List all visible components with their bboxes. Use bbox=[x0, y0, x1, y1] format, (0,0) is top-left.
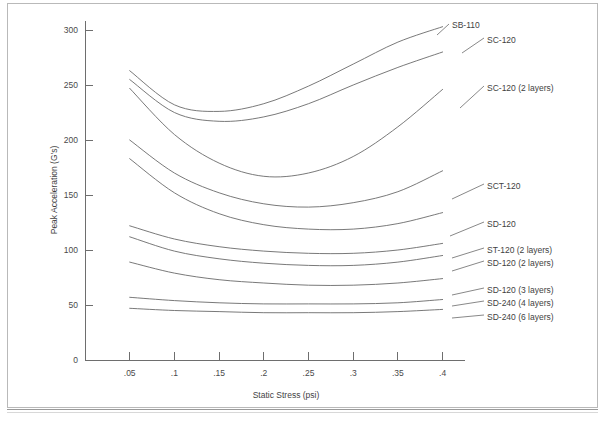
series-labels: SB-110SC-120SC-120 (2 layers)SCT-120SD-1… bbox=[452, 20, 554, 322]
series-leader-line bbox=[452, 184, 484, 199]
series-label: SD-120 bbox=[487, 219, 516, 229]
figure-page: 050100150200250300 .05.1.15.2.25.3.35.4 … bbox=[0, 0, 606, 425]
series-curves bbox=[130, 27, 443, 313]
series-label: SC-120 (2 layers) bbox=[487, 83, 554, 93]
series-label: ST-120 (2 layers) bbox=[487, 245, 552, 255]
y-tick-label: 100 bbox=[64, 245, 78, 255]
series-label: SC-120 bbox=[487, 35, 516, 45]
y-tick-label: 50 bbox=[69, 300, 79, 310]
series-curve bbox=[130, 308, 443, 312]
series-curve bbox=[130, 226, 443, 254]
peak-acceleration-chart: 050100150200250300 .05.1.15.2.25.3.35.4 … bbox=[0, 0, 606, 425]
series-leader-line bbox=[450, 222, 484, 236]
series-curve bbox=[130, 159, 443, 230]
y-tick-label: 250 bbox=[64, 80, 78, 90]
series-label: SD-120 (2 layers) bbox=[487, 258, 554, 268]
series-curve bbox=[130, 262, 443, 285]
x-tick-label: .3 bbox=[350, 368, 357, 378]
x-tick-label: .2 bbox=[260, 368, 267, 378]
y-tick-label: 0 bbox=[73, 355, 78, 365]
y-tick-label: 150 bbox=[64, 190, 78, 200]
series-curve bbox=[130, 140, 443, 207]
series-curve bbox=[130, 52, 443, 121]
series-leader-line bbox=[460, 86, 484, 108]
y-axis-ticks: 050100150200250300 bbox=[64, 25, 93, 365]
x-axis-title: Static Stress (psi) bbox=[253, 390, 320, 400]
y-tick-label: 300 bbox=[64, 25, 78, 35]
series-curve bbox=[130, 297, 443, 304]
series-leader-line bbox=[452, 261, 484, 271]
series-curve bbox=[130, 88, 443, 177]
series-label: SD-240 (4 layers) bbox=[487, 298, 554, 308]
y-tick-label: 200 bbox=[64, 135, 78, 145]
series-leader-line bbox=[462, 38, 484, 53]
series-label: SB-110 bbox=[452, 20, 480, 30]
x-tick-label: .25 bbox=[303, 368, 315, 378]
y-axis-title: Peak Acceleration (G's) bbox=[49, 146, 59, 235]
x-tick-label: .15 bbox=[213, 368, 225, 378]
series-curve bbox=[130, 27, 443, 112]
series-label: SCT-120 bbox=[487, 181, 521, 191]
series-leader-line bbox=[452, 301, 484, 306]
x-tick-label: .4 bbox=[439, 368, 446, 378]
series-label: SD-120 (3 layers) bbox=[487, 285, 554, 295]
series-leader-line bbox=[452, 248, 484, 258]
series-leader-line bbox=[437, 24, 449, 35]
axes-group: 050100150200250300 .05.1.15.2.25.3.35.4 bbox=[64, 21, 465, 378]
x-tick-label: .1 bbox=[171, 368, 178, 378]
x-tick-label: .05 bbox=[124, 368, 136, 378]
x-tick-label: .35 bbox=[392, 368, 404, 378]
series-curve bbox=[130, 237, 443, 266]
series-leader-line bbox=[452, 288, 484, 295]
x-axis-ticks: .05.1.15.2.25.3.35.4 bbox=[124, 352, 447, 378]
series-leader-line bbox=[452, 315, 484, 318]
series-leader-lines bbox=[437, 24, 484, 318]
series-label: SD-240 (6 layers) bbox=[487, 312, 554, 322]
